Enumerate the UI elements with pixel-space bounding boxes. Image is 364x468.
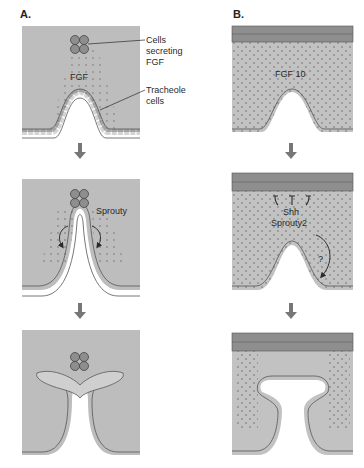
diagram-canvas: FGF Cells secreting FGF Tracheole cells … <box>0 0 364 468</box>
sprouty-label: Sprouty <box>96 206 128 216</box>
fgf10-label: FGF 10 <box>275 69 306 79</box>
down-arrow-icon <box>74 303 86 319</box>
callout-label: FGF <box>146 57 164 67</box>
down-arrow-icon <box>74 143 86 159</box>
panel-a-stage-2: Sprouty <box>22 179 140 296</box>
fgf-label: FGF <box>70 72 88 82</box>
panel-a-stage-1: FGF Cells secreting FGF Tracheole cells <box>22 26 186 140</box>
shh-label: Shh <box>283 207 299 217</box>
panel-b-stage-1: FGF 10 <box>232 26 353 140</box>
sprouty2-label: Sprouty2 <box>271 218 307 228</box>
panel-a-stage-3 <box>22 330 140 465</box>
callout-label: Cells <box>146 35 167 45</box>
unknown-label: ? <box>318 254 323 264</box>
callout-label: cells <box>146 96 165 106</box>
panel-b-stage-3 <box>232 333 353 465</box>
callout-label: Tracheole <box>146 85 186 95</box>
panel-b-stage-2: Shh Sprouty2 ? <box>232 173 353 296</box>
down-arrow-icon <box>285 303 297 319</box>
down-arrow-icon <box>285 143 297 159</box>
callout-label: secreting <box>146 46 183 56</box>
